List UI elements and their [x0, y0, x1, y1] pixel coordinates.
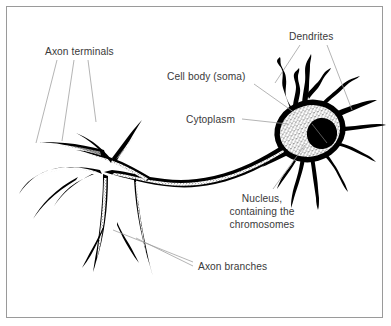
leader-axon-terminals-2 — [62, 60, 74, 141]
label-axon-branches: Axon branches — [198, 261, 267, 272]
label-cell-body: Cell body (soma) — [167, 71, 246, 82]
leader-axon-terminals-3 — [88, 60, 96, 122]
label-nucleus-line3: chromosomes — [229, 219, 294, 230]
axon-terminals-group — [19, 120, 142, 219]
label-dendrites: Dendrites — [289, 31, 334, 42]
label-nucleus-line1: Nucleus, — [242, 193, 282, 204]
leader-axon-branches-2 — [136, 238, 193, 266]
label-axon-terminals: Axon terminals — [45, 46, 114, 57]
leader-axon-terminals-1 — [36, 60, 57, 143]
neuron-illustration: Axon terminals Dendrites Cell body (soma… — [0, 0, 391, 326]
leader-cell-body — [254, 84, 295, 113]
label-cytoplasm: Cytoplasm — [186, 114, 235, 125]
label-nucleus-line2: containing the — [230, 206, 295, 217]
leader-dendrites-2 — [327, 45, 352, 110]
neuron-diagram-figure: Axon terminals Dendrites Cell body (soma… — [0, 0, 391, 326]
axon-group — [104, 145, 288, 187]
